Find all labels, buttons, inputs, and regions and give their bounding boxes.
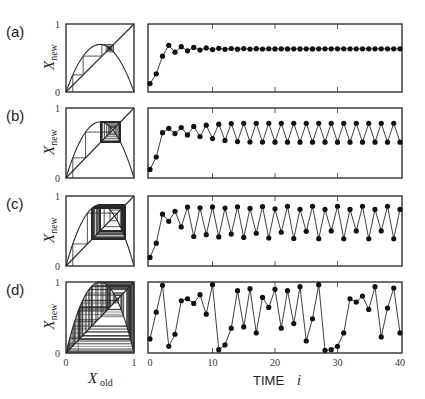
data-point	[154, 241, 159, 246]
data-point	[147, 167, 152, 172]
data-point	[154, 310, 159, 315]
data-point	[179, 224, 184, 229]
data-point	[329, 228, 334, 233]
data-point	[185, 205, 190, 210]
data-point	[222, 342, 227, 347]
data-point	[197, 205, 202, 210]
data-point	[279, 230, 284, 235]
data-point	[291, 46, 296, 51]
data-point	[347, 46, 352, 51]
logistic-map-figure: 10Xnew10Xnew10Xnew10Xnew (a) (b) (c) (d)…	[0, 0, 425, 399]
x-tick-0: 0	[64, 357, 69, 368]
svg-text:TIME: TIME	[253, 373, 284, 388]
panel-b: 10Xnew	[41, 103, 403, 184]
data-point	[385, 140, 390, 145]
data-point	[341, 121, 346, 126]
data-point	[204, 123, 209, 128]
data-point	[285, 46, 290, 51]
data-point	[229, 231, 234, 236]
time-tick-label: 20	[270, 357, 280, 368]
data-point	[372, 46, 377, 51]
data-point	[347, 140, 352, 145]
data-point	[291, 121, 296, 126]
data-point	[229, 121, 234, 126]
time-axis-label: TIME i	[253, 373, 301, 388]
time-series-plot-a	[147, 24, 402, 92]
time-axis-ticks: 010203040	[148, 357, 406, 368]
data-point	[179, 298, 184, 303]
y-tick-1: 1	[55, 277, 60, 288]
y-tick-0: 0	[55, 261, 60, 272]
data-point	[216, 234, 221, 239]
data-point	[160, 283, 165, 288]
data-point	[272, 46, 277, 51]
data-point	[297, 140, 302, 145]
data-point	[172, 50, 177, 55]
data-point	[191, 301, 196, 306]
data-point	[322, 140, 327, 145]
data-point	[247, 286, 252, 291]
data-point	[291, 321, 296, 326]
data-point	[147, 336, 152, 341]
cobweb-plot-b: 10Xnew	[41, 103, 134, 184]
data-point	[222, 47, 227, 52]
data-point	[391, 236, 396, 241]
data-point	[379, 121, 384, 126]
data-point	[304, 338, 309, 343]
data-point	[347, 296, 352, 301]
data-point	[235, 204, 240, 209]
data-point	[366, 46, 371, 51]
data-point	[391, 46, 396, 51]
y-tick-1: 1	[55, 19, 60, 30]
data-point	[397, 330, 402, 335]
time-series-frame	[148, 282, 402, 353]
data-point	[335, 46, 340, 51]
data-point	[241, 324, 246, 329]
data-point	[329, 347, 334, 352]
data-point	[166, 43, 171, 48]
data-point	[304, 229, 309, 234]
data-point	[147, 255, 152, 260]
data-point	[397, 140, 402, 145]
time-tick-label: 40	[395, 357, 405, 368]
series-line	[150, 123, 400, 169]
data-point	[247, 46, 252, 51]
y-tick-0: 0	[55, 173, 60, 184]
y-tick-1: 1	[55, 191, 60, 202]
data-point	[397, 46, 402, 51]
data-point	[347, 207, 352, 212]
data-point	[372, 284, 377, 289]
data-point	[254, 121, 259, 126]
data-point	[191, 234, 196, 239]
data-point	[372, 207, 377, 212]
cobweb-plot-a: 10Xnew	[41, 19, 134, 98]
data-point	[291, 236, 296, 241]
data-point	[297, 284, 302, 289]
data-point	[329, 121, 334, 126]
data-point	[304, 46, 309, 51]
panel-label-b: (b)	[6, 107, 24, 124]
data-point	[254, 46, 259, 51]
cobweb-plot-c: 10Xnew	[41, 191, 134, 272]
data-point	[360, 293, 365, 298]
data-point	[297, 46, 302, 51]
panel-label-d: (d)	[6, 281, 24, 298]
data-point	[216, 46, 221, 51]
data-point	[216, 347, 221, 352]
data-point	[229, 326, 234, 331]
data-point	[316, 236, 321, 241]
data-point	[272, 287, 277, 292]
data-point	[266, 121, 271, 126]
data-point	[397, 207, 402, 212]
y-axis-label: Xnew	[41, 43, 59, 71]
svg-text:X: X	[87, 370, 98, 386]
data-point	[260, 204, 265, 209]
data-point	[266, 305, 271, 310]
data-point	[247, 139, 252, 144]
data-point	[322, 207, 327, 212]
data-point	[185, 296, 190, 301]
data-point	[222, 138, 227, 143]
data-point	[185, 48, 190, 53]
cobweb-trajectory	[73, 205, 126, 266]
data-point	[360, 46, 365, 51]
